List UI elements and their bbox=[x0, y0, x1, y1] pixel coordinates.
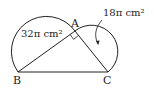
area-label-ab: 32π cm² bbox=[21, 29, 63, 39]
point-label-c: C bbox=[103, 75, 111, 86]
semicircle-diagram: A B C 32π cm² 18π cm² bbox=[0, 0, 154, 89]
point-label-b: B bbox=[13, 75, 21, 86]
segment-ac bbox=[75, 31, 108, 72]
point-label-a: A bbox=[71, 18, 79, 29]
right-angle-mark bbox=[70, 35, 78, 40]
pointer-arrow bbox=[96, 20, 102, 44]
semicircle-ab bbox=[11, 16, 75, 72]
area-label-ac: 18π cm² bbox=[103, 8, 145, 18]
arrowhead-icon bbox=[96, 41, 100, 46]
semicircle-ac bbox=[75, 25, 118, 72]
